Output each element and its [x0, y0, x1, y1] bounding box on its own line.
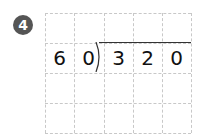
- dividend-digit: 2: [133, 43, 162, 73]
- grid-line: [45, 103, 191, 104]
- dividend-digit: 0: [162, 43, 191, 73]
- grid-line: [45, 73, 191, 74]
- divisor-digit: 0: [74, 43, 103, 73]
- grid-line: [191, 13, 192, 133]
- grid-line: [45, 133, 191, 134]
- grid-line: [45, 13, 191, 14]
- long-division-grid: 6 0 3 2 0: [45, 13, 191, 133]
- divisor-digit: 6: [45, 43, 74, 73]
- problem-number-badge: 4: [13, 15, 33, 35]
- dividend-digit: 3: [104, 43, 133, 73]
